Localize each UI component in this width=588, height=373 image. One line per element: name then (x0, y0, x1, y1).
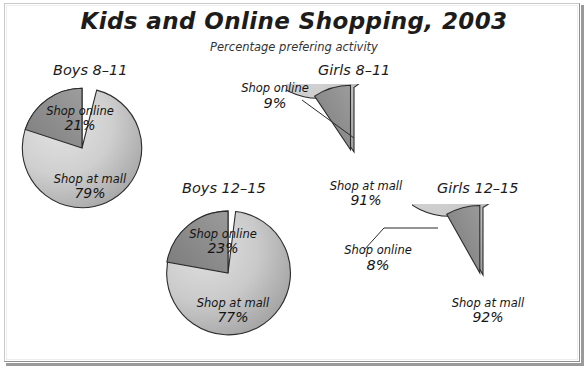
slice-girls-12-15-shop-online (447, 206, 480, 274)
pie-title-girls-12-15: Girls 12–15 (437, 180, 519, 196)
slice-girls-8-11-shop-online (315, 85, 351, 150)
figure-shadow-bottom (6, 363, 584, 366)
pie-title-girls-8-11: Girls 8–11 (318, 62, 390, 78)
pie-chart-boys-12-15 (163, 208, 293, 338)
figure-subtitle: Percentage prefering activity (0, 40, 588, 54)
figure-shadow-right (581, 5, 584, 366)
pie-svg-girls-8-11 (286, 84, 422, 220)
pie-svg-boys-8-11 (20, 86, 144, 210)
slice-group-girls-12-15-shop-online (447, 206, 480, 274)
figure-title: Kids and Online Shopping, 2003 (0, 8, 588, 34)
pie-chart-girls-12-15 (412, 204, 554, 346)
pie-title-boys-8-11: Boys 8–11 (53, 62, 128, 78)
pie-chart-girls-8-11 (286, 84, 422, 220)
slice-group-girls-8-11-shop-online (315, 85, 351, 150)
pie-svg-girls-12-15 (412, 204, 554, 346)
pie-title-boys-12-15: Boys 12–15 (182, 180, 266, 196)
chart-figure: Kids and Online Shopping, 2003 Percentag… (0, 0, 588, 373)
slice-boys-12-15-shop-online (167, 211, 228, 273)
pie-chart-boys-8-11 (20, 86, 144, 210)
pie-svg-boys-12-15 (163, 208, 293, 338)
